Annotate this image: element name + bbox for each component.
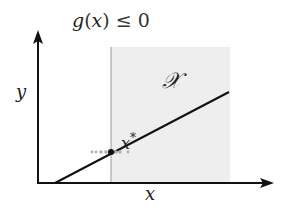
optimum-point <box>108 149 114 155</box>
x-axis-label: x <box>145 183 155 204</box>
diagram-canvas: g(x)≤ 0 𝒳 x* y x <box>0 0 287 211</box>
y-axis-label: y <box>15 81 27 102</box>
constraint-label: g(x)≤ 0 <box>72 9 150 31</box>
